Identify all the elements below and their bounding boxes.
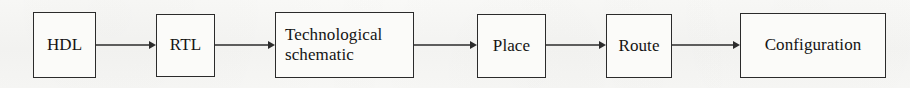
arrow-place-to-route	[546, 38, 606, 52]
node-label-configuration: Configuration	[765, 35, 862, 55]
node-rtl[interactable]: RTL	[156, 14, 215, 77]
arrowhead-icon	[733, 41, 740, 49]
node-tech-schematic[interactable]: Technological schematic	[275, 12, 414, 78]
node-configuration[interactable]: Configuration	[740, 13, 886, 78]
node-place[interactable]: Place	[477, 14, 546, 78]
arrowhead-icon	[149, 41, 156, 49]
arrowhead-icon	[599, 41, 606, 49]
arrow-tech-schematic-to-place	[414, 38, 477, 52]
node-label-rtl: RTL	[170, 35, 201, 55]
arrow-route-to-configuration	[672, 38, 740, 52]
node-label-place: Place	[493, 36, 530, 56]
arrow-rtl-to-tech-schematic	[215, 38, 275, 52]
flow-diagram-canvas: HDLRTLTechnological schematicPlaceRouteC…	[0, 0, 910, 88]
node-label-tech-schematic: Technological schematic	[285, 25, 382, 65]
node-label-hdl: HDL	[47, 35, 82, 55]
node-route[interactable]: Route	[606, 14, 672, 78]
arrow-hdl-to-rtl	[96, 38, 156, 52]
arrowhead-icon	[470, 41, 477, 49]
node-hdl[interactable]: HDL	[33, 12, 96, 78]
node-label-route: Route	[618, 36, 659, 56]
arrowhead-icon	[268, 41, 275, 49]
